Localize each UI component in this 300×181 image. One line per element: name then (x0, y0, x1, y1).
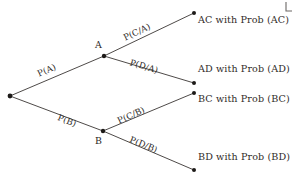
outcome-label-ad: AD with Prob (AD) (198, 64, 290, 74)
branch-line-root-b (10, 96, 103, 131)
branch-line-root-a (10, 56, 104, 96)
node-root (8, 94, 13, 99)
node-ac (192, 11, 196, 15)
outcome-label-ac: AC with Prob (AC) (198, 15, 289, 25)
branch-line-a-ac (104, 13, 194, 56)
node-ad (192, 81, 196, 85)
branch-line-b-bc (103, 93, 194, 131)
node-bd (192, 168, 196, 172)
node-label-b: B (95, 136, 102, 145)
corner-scan-mark-icon (286, 2, 292, 11)
node-a (102, 54, 106, 58)
node-b (101, 129, 105, 133)
node-label-a: A (95, 40, 102, 49)
outcome-label-bd: BD with Prob (BD) (198, 152, 290, 162)
node-bc (192, 91, 196, 95)
probability-tree-diagram: A B P(A) P(B) P(C/A) P(D/A) P(C/B) P(D/B… (0, 0, 300, 181)
outcome-label-bc: BC with Prob (BC) (198, 94, 290, 104)
